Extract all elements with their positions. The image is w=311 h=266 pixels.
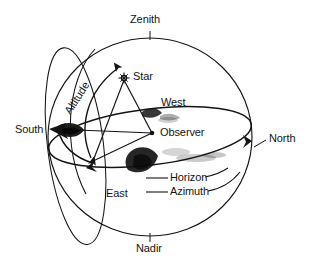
- observer-point: [150, 131, 155, 136]
- observer-to-star-line: [124, 80, 152, 133]
- star-icon: [119, 73, 130, 84]
- label-north: North: [269, 133, 295, 144]
- label-nadir: Nadir: [136, 243, 162, 254]
- label-star: Star: [133, 71, 153, 82]
- label-zenith: Zenith: [130, 14, 160, 25]
- north-leader: [254, 140, 266, 147]
- ink-smudges: [58, 108, 226, 172]
- label-south: South: [15, 124, 43, 135]
- diagram-canvas: [0, 0, 311, 266]
- label-west: West: [161, 97, 185, 108]
- label-observer: Observer: [160, 127, 204, 138]
- celestial-sphere-diagram: Zenith Star Altitude West Observer South…: [0, 0, 311, 266]
- label-azimuth: Azimuth: [170, 186, 209, 197]
- meridian-ellipse: [36, 44, 116, 247]
- label-horizon: Horizon: [170, 172, 207, 183]
- north-point-marker: [243, 135, 252, 148]
- horizon-leader-right: [205, 168, 228, 177]
- label-east: East: [106, 188, 128, 199]
- outer-sphere-circle: [48, 38, 252, 236]
